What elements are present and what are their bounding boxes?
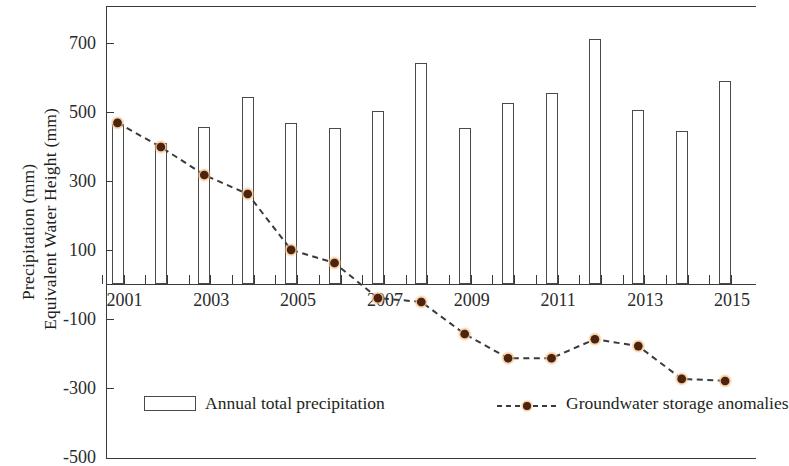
legend-label: Groundwater storage anomalies [566,395,789,413]
y-axis-tick-label: -500 [16,448,96,466]
y-axis-tick-label: 500 [16,103,96,121]
data-point-marker [504,354,513,363]
y-axis-tick-label: -300 [16,379,96,397]
data-point-marker [634,342,643,351]
data-point-marker [374,294,383,303]
line-series-groundwater-storage-anomalies [106,6,756,459]
y-axis-title-line-2: Equivalent Water Height (mm) [40,108,61,330]
data-point-marker [157,143,166,152]
data-point-marker [113,119,122,128]
data-point-marker [417,298,426,307]
data-point-marker [547,354,556,363]
data-point-marker [460,330,469,339]
legend-bar-swatch-icon [144,396,196,411]
data-point-marker [243,190,252,199]
data-point-marker [200,171,209,180]
x-axis-tick [102,275,103,284]
legend-item: Annual total precipitation [144,395,385,413]
legend-item: Groundwater storage anomalies [496,395,789,413]
y-axis-tick-label: 100 [16,241,96,259]
legend-label: Annual total precipitation [205,395,385,413]
data-point-marker [330,259,339,268]
y-axis-tick-label: 700 [16,34,96,52]
y-axis-tick-label: -100 [16,310,96,328]
y-axis-tick-label: 300 [16,172,96,190]
data-point-marker [677,375,686,384]
data-point-marker [591,335,600,344]
data-point-marker [287,246,296,255]
plot-area: 20012003200520072009201120132015 Annual … [106,6,756,459]
legend-dashed-line-marker-icon [496,397,558,411]
data-point-marker [721,377,730,386]
